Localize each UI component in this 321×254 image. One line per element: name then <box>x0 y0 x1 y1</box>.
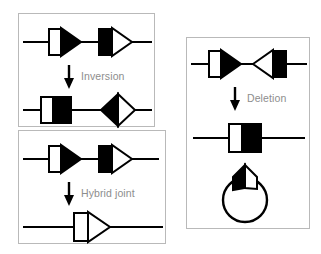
deletion-excised-row <box>187 160 311 226</box>
segment-white-box-black-arrow <box>49 145 81 173</box>
inversion-before-row <box>19 22 156 62</box>
inversion-after-diagram <box>19 90 156 130</box>
segment-black-box-white-arrow <box>99 145 132 173</box>
segment-box <box>74 213 88 241</box>
segment-box <box>49 146 61 172</box>
segment-half-black-diamond <box>101 94 135 126</box>
segment-arrow-right-icon <box>221 50 241 78</box>
segment-white-box-black-box <box>41 97 71 123</box>
deletion-after-row <box>187 118 311 158</box>
hybrid-after-diagram <box>19 207 167 247</box>
panel-hybrid-joint: Hybrid joint <box>18 130 166 244</box>
segment-white-arrow-black-box <box>253 50 286 78</box>
deletion-after-diagram <box>187 118 311 158</box>
deletion-before-diagram <box>187 44 311 84</box>
segment-arrow-right-icon <box>61 28 81 56</box>
arrow-head <box>64 195 74 206</box>
hybrid-before-row <box>19 139 167 179</box>
segment-box <box>41 97 53 123</box>
panel-inversion: Inversion <box>18 13 155 127</box>
inversion-after-row <box>19 90 156 130</box>
circular-excision-product <box>187 160 311 226</box>
segment-box <box>209 51 221 77</box>
down-arrow-icon <box>61 64 77 90</box>
arrow-head <box>230 100 240 111</box>
diamond-right-half <box>245 165 257 189</box>
diamond-right-half <box>118 94 135 126</box>
segment-arrow-right-icon <box>61 145 81 173</box>
segment-white-box-black-arrow <box>49 28 81 56</box>
segment-box <box>229 124 242 152</box>
segment-white-box-white-arrow <box>74 212 110 242</box>
inversion-transition-arrow <box>61 64 77 90</box>
deletion-transition-arrow <box>227 86 243 112</box>
segment-white-box-black-box <box>229 124 261 152</box>
segment-black-box-white-arrow <box>99 28 132 56</box>
panel-deletion: Deletion <box>186 37 310 229</box>
segment-arrow-right-icon <box>112 145 132 173</box>
segment-arrow-flat-icon <box>53 97 71 123</box>
deletion-before-row <box>187 44 311 84</box>
segment-box <box>273 51 286 77</box>
hybrid-before-diagram <box>19 139 167 179</box>
operation-label-deletion: Deletion <box>247 92 286 104</box>
segment-arrow-right-icon <box>88 212 110 242</box>
segment-box <box>99 29 112 55</box>
operation-label-inversion: Inversion <box>81 70 125 82</box>
hybrid-after-row <box>19 207 167 247</box>
arrow-head <box>64 78 74 89</box>
segment-arrow-left-icon <box>253 50 273 78</box>
segment-arrow-right-icon <box>112 28 132 56</box>
operation-label-hybrid-joint: Hybrid joint <box>81 187 135 199</box>
diamond-left-half <box>101 94 118 126</box>
down-arrow-icon <box>61 181 77 207</box>
segment-white-box-black-arrow <box>209 50 241 78</box>
segment-box <box>49 29 61 55</box>
segment-box <box>99 146 112 172</box>
inversion-before-diagram <box>19 22 156 62</box>
down-arrow-icon <box>227 86 243 112</box>
hybrid-transition-arrow <box>61 181 77 207</box>
segment-arrow-flat-icon <box>242 124 261 152</box>
diamond-left-half <box>233 165 245 190</box>
